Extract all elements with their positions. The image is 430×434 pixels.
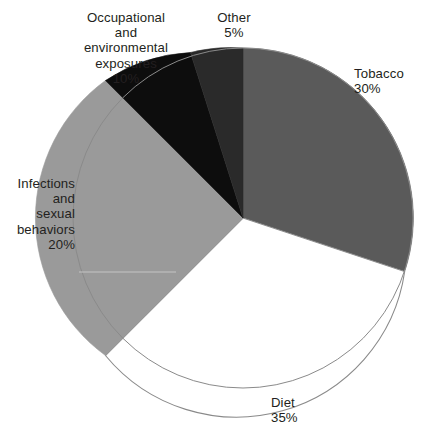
pie-label-tobacco: Tobacco 30%: [354, 66, 404, 96]
pie-chart: Tobacco 30% Diet 35% Infections and sexu…: [0, 0, 430, 434]
pie-label-other: Other 5%: [196, 10, 272, 40]
pie-label-infections-and-sexual-behaviors: Infections and sexual behaviors 20%: [8, 176, 75, 252]
pie-label-diet: Diet 35%: [271, 395, 298, 425]
pie-label-occupational-and-environmental-exposures: Occupational and environmental exposures…: [58, 10, 194, 86]
